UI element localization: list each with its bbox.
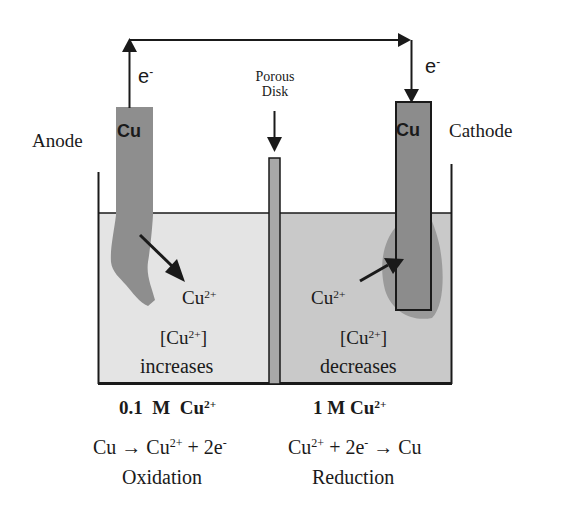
left-concentration-bracket: [Cu2+] [160, 328, 207, 347]
porous-disk-label-line2: Disk [246, 84, 304, 99]
porous-disk-label-line1: Porous [246, 69, 304, 84]
left-concentration: 0.1 M Cu2+ [119, 398, 216, 417]
right-concentration-bracket: [Cu2+] [340, 328, 387, 347]
right-concentration-change: decreases [320, 356, 397, 376]
cathode-label: Cathode [449, 121, 512, 140]
wire-arrow-right-icon [398, 33, 411, 47]
oxidation-label: Oxidation [122, 467, 202, 487]
porous-disk-arrow-icon [267, 137, 282, 152]
wire-arrow-down-icon [404, 89, 419, 103]
right-concentration: 1 M Cu2+ [313, 398, 386, 417]
cathode-ion-label: Cu2+ [311, 288, 345, 307]
anode-ion-label: Cu2+ [182, 288, 216, 307]
porous-disk [269, 158, 280, 384]
anode-electron-label: e- [138, 66, 153, 86]
cathode-symbol: Cu [396, 121, 420, 139]
cathode-electron-label: e- [425, 56, 440, 76]
porous-disk-label: Porous Disk [246, 69, 304, 99]
anode-label: Anode [32, 131, 83, 150]
reduction-label: Reduction [312, 467, 394, 487]
anode-symbol: Cu [117, 122, 141, 140]
left-concentration-change: increases [140, 356, 213, 376]
oxidation-equation: Cu → Cu2+ + 2e- [93, 437, 227, 457]
reduction-equation: Cu2+ + 2e- → Cu [288, 437, 422, 457]
